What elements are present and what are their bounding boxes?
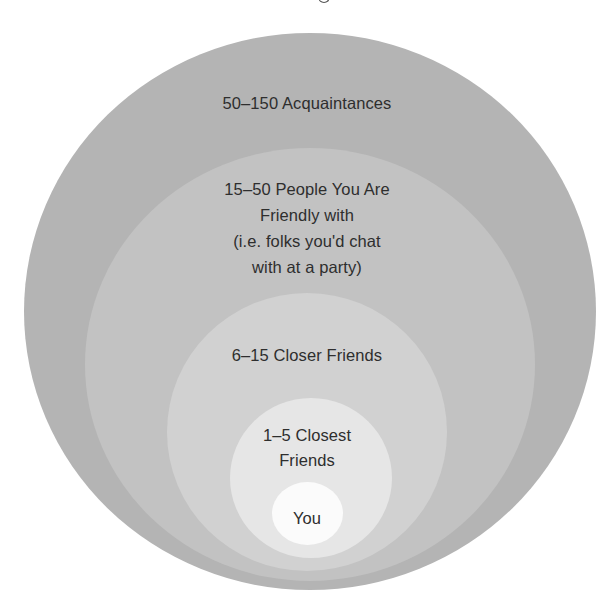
label-friendly: 15–50 People You Are Friendly with (i.e.… xyxy=(0,176,614,280)
label-line: 1–5 Closest xyxy=(0,423,614,448)
label-line: You xyxy=(0,505,614,531)
label-you: You xyxy=(0,505,614,531)
label-line: (i.e. folks you'd chat xyxy=(0,228,614,254)
label-closer-friends: 6–15 Closer Friends xyxy=(0,342,614,368)
label-line: Friends xyxy=(0,448,614,473)
label-line: 6–15 Closer Friends xyxy=(0,342,614,368)
label-acquaintances: 50–150 Acquaintances xyxy=(0,90,614,116)
cut-off-title-glyph xyxy=(318,0,330,3)
label-line: with at a party) xyxy=(0,254,614,280)
label-line: Friendly with xyxy=(0,202,614,228)
label-line: 50–150 Acquaintances xyxy=(0,90,614,116)
label-line: 15–50 People You Are xyxy=(0,176,614,202)
label-closest-friends: 1–5 Closest Friends xyxy=(0,423,614,473)
